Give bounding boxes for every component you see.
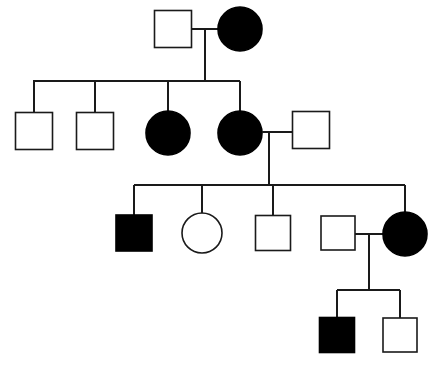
individual-II-2-square-unaffected[interactable] [77,113,114,150]
individual-II-5-square-unaffected[interactable] [293,112,330,149]
individual-I-1-square-unaffected[interactable] [155,11,192,48]
individual-I-2-circle-affected[interactable] [218,7,262,51]
generation-4-group [320,318,418,353]
individual-II-1-square-unaffected[interactable] [16,113,53,150]
individual-III-2-circle-unaffected[interactable] [182,213,222,253]
individual-IV-2-square-unaffected[interactable] [383,318,417,352]
individual-III-3-square-unaffected[interactable] [256,216,291,251]
individual-II-3-circle-affected[interactable] [146,111,190,155]
individual-III-5-circle-affected[interactable] [383,212,427,256]
individual-II-4-circle-affected[interactable] [218,111,262,155]
pedigree-chart: Family pedigree chart [0,0,434,366]
generation-1-group [155,7,263,81]
sibship-group-3 [337,290,400,318]
individual-III-1-square-affected[interactable] [116,215,152,251]
individual-III-4-square-unaffected[interactable] [321,216,355,250]
pedigree-canvas [0,0,434,366]
generation-2-group [16,111,330,185]
sibship-group-2 [134,185,405,216]
sibship-group-1 [33,81,240,113]
generation-3-group [116,212,427,290]
individual-IV-1-square-affected[interactable] [320,318,355,353]
